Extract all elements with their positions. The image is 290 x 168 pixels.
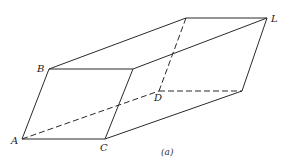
- label-D: D: [153, 92, 162, 103]
- label-B: B: [36, 63, 44, 74]
- hidden-edge-A-D: [22, 91, 159, 139]
- edge-B-E: [49, 18, 186, 69]
- label-C: C: [100, 142, 108, 153]
- figure-caption: (a): [161, 147, 174, 157]
- edge-C-G: [105, 91, 242, 139]
- edge-A-B: [22, 69, 49, 139]
- hidden-edge-E-D: [159, 18, 186, 91]
- label-L: L: [270, 13, 278, 24]
- parallelepiped-diagram: B A C D L (a): [0, 0, 290, 168]
- edge-F-C: [105, 69, 133, 139]
- edge-L-G: [242, 18, 267, 91]
- label-A: A: [10, 135, 18, 146]
- edge-F-L: [133, 18, 267, 69]
